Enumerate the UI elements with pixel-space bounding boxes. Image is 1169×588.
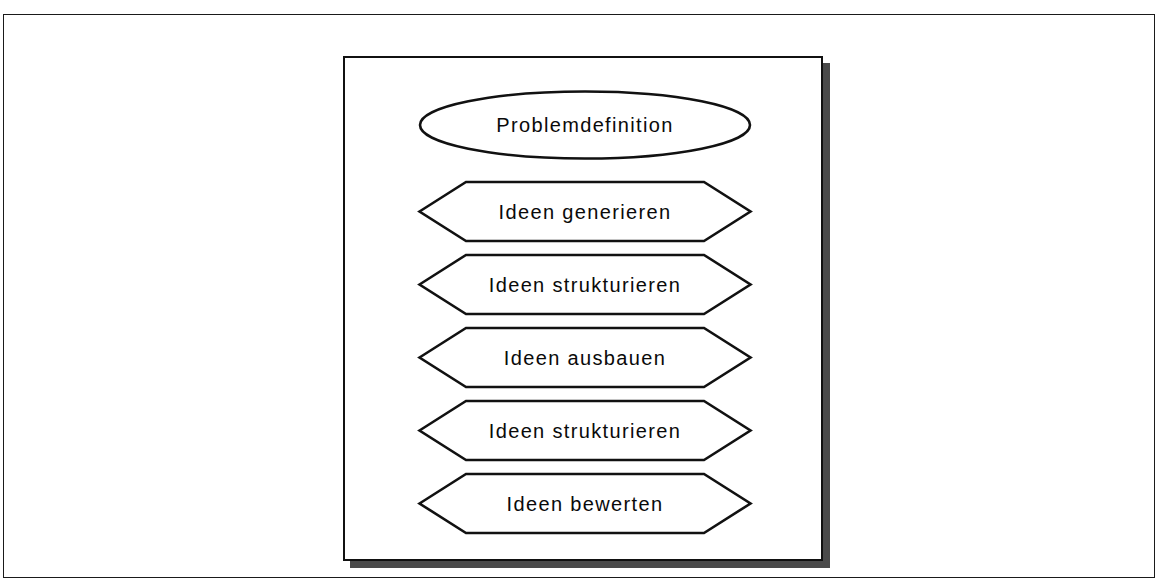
flow-node-step-2[interactable]: Ideen strukturieren — [418, 253, 752, 316]
ellipse-shape — [418, 90, 752, 160]
hexagon-shape — [418, 326, 752, 389]
hexagon-shape — [418, 472, 752, 535]
flow-node-step-5[interactable]: Ideen bewerten — [418, 472, 752, 535]
flow-node-step-3[interactable]: Ideen ausbauen — [418, 326, 752, 389]
diagram-panel: Problemdefinition Ideen generieren Ideen… — [343, 56, 823, 561]
hexagon-shape — [418, 253, 752, 316]
flow-node-start[interactable]: Problemdefinition — [418, 90, 752, 160]
flow-node-step-1[interactable]: Ideen generieren — [418, 180, 752, 243]
hexagon-shape — [418, 180, 752, 243]
outer-page-frame: Problemdefinition Ideen generieren Ideen… — [3, 14, 1155, 578]
hexagon-shape — [418, 399, 752, 462]
flow-node-step-4[interactable]: Ideen strukturieren — [418, 399, 752, 462]
